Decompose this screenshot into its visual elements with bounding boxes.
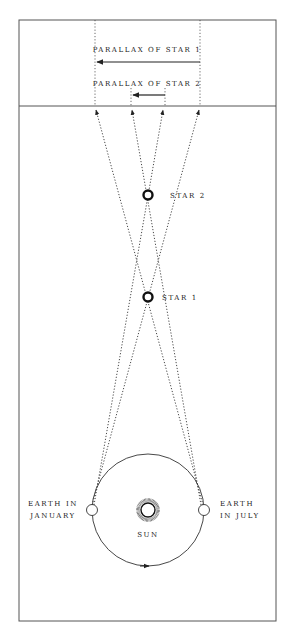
- sightline-july-star1: [96, 110, 203, 505]
- earth-january-label-line2: JANUARY: [29, 512, 76, 520]
- earth-july-label-line1: EARTH: [220, 500, 254, 508]
- earth-july-icon: [199, 505, 210, 516]
- sightline-jan-star2: [94, 110, 163, 505]
- sun-icon: [138, 500, 158, 520]
- star1-label: STAR 1: [162, 294, 198, 302]
- sun-label: SUN: [137, 531, 159, 539]
- sightline-july-star2: [132, 110, 201, 505]
- star-2-icon: [144, 191, 153, 200]
- star2-label: STAR 2: [170, 192, 206, 200]
- earth-july-label-line2: IN JULY: [220, 512, 260, 520]
- earth-january-label-line1: EARTH IN: [28, 500, 78, 508]
- earth-january-icon: [87, 505, 98, 516]
- parallax-star2-label: PARALLAX OF STAR 2: [93, 80, 202, 88]
- star-1-icon: [144, 293, 153, 302]
- parallax-star1-label: PARALLAX OF STAR 1: [93, 46, 202, 54]
- parallax-diagram: PARALLAX OF STAR 1 PARALLAX OF STAR 2 ST…: [0, 0, 290, 638]
- sightline-jan-star1: [92, 110, 199, 505]
